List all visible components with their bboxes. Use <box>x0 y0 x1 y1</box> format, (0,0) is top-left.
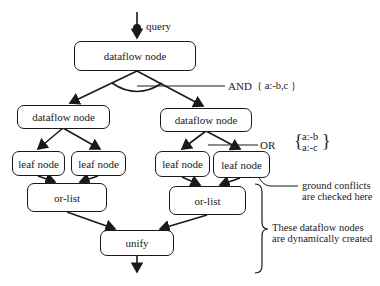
query-dot <box>133 24 141 32</box>
edge-rl1-orlist <box>182 177 200 185</box>
edge-right-leaf1 <box>182 131 206 149</box>
right-dataflow-node: dataflow node <box>160 108 252 132</box>
node-label: or-list <box>194 195 220 207</box>
node-label: unify <box>125 237 148 249</box>
edge-top-left <box>70 71 137 103</box>
edge-left-leaf1 <box>38 128 63 149</box>
edge-ror-unify <box>160 215 207 229</box>
edge-rl2-orlist <box>220 178 240 185</box>
node-label: or-list <box>54 192 80 204</box>
left-leaf-node-1: leaf node <box>12 151 65 176</box>
top-dataflow-node: dataflow node <box>74 41 196 71</box>
ground-note-line-2: are checked here <box>302 191 373 203</box>
edge-ll2-orlist <box>80 176 98 182</box>
and-label: AND <box>228 80 252 92</box>
node-label: leaf node <box>18 158 59 170</box>
right-brace <box>255 184 268 273</box>
or-brace-close: } <box>322 130 331 152</box>
edge-lor-unify <box>67 212 115 229</box>
node-label: dataflow node <box>32 111 95 123</box>
unify-node: unify <box>100 230 174 256</box>
edge-ll1-orlist <box>38 176 55 182</box>
left-leaf-node-2: leaf node <box>71 151 126 176</box>
right-or-list: or-list <box>169 186 246 215</box>
query-label: query <box>146 20 171 32</box>
edge-left-leaf2 <box>63 128 100 149</box>
node-label: dataflow node <box>175 114 238 126</box>
and-arc <box>112 83 162 92</box>
right-leaf-node-1: leaf node <box>155 151 210 177</box>
right-leaf-node-2: leaf node <box>213 151 270 178</box>
left-or-list: or-list <box>27 183 107 212</box>
and-clause: { a:-b,c } <box>257 80 296 92</box>
or-label: OR <box>260 139 275 151</box>
or-clause-2: a:-c <box>302 142 318 154</box>
node-label: leaf node <box>162 158 203 170</box>
node-label: dataflow node <box>104 50 167 62</box>
edge-right-leaf2 <box>206 131 240 149</box>
dynamic-note-line-2: are dynamically created <box>272 233 372 245</box>
node-label: leaf node <box>221 159 262 171</box>
left-dataflow-node: dataflow node <box>17 105 110 129</box>
edge-top-right <box>137 71 203 106</box>
node-label: leaf node <box>78 158 119 170</box>
